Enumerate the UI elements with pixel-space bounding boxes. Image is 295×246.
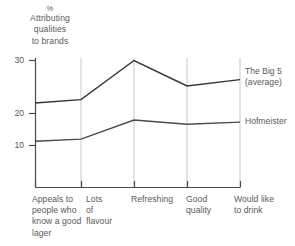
y-tick-label-10: 10 bbox=[4, 140, 24, 150]
x-axis bbox=[35, 181, 241, 188]
x-tick-label-lots-of-flavour: Lots of flavour bbox=[86, 194, 132, 228]
legend-label-the-big-5: The Big 5 (average) bbox=[245, 66, 282, 88]
x-tick-label-appeals-to-people-who-know-a-good-lager: Appeals to people who know a good lager bbox=[32, 194, 84, 239]
line-chart: % Attributing qualities to brands bbox=[0, 0, 295, 246]
y-tick-label-20: 20 bbox=[4, 108, 24, 118]
y-axis bbox=[29, 58, 36, 188]
x-tick-label-would-like-to-drink: Would like to drink bbox=[234, 194, 292, 216]
x-tick-label-good-quality: Good quality bbox=[186, 194, 234, 216]
x-tick-label-refreshing: Refreshing bbox=[131, 194, 185, 205]
series-line-hofmeister bbox=[35, 120, 240, 141]
legend-label-hofmeister: Hofmeister bbox=[245, 116, 287, 127]
series-line-the-big-5 bbox=[35, 61, 240, 104]
y-tick-label-30: 30 bbox=[4, 55, 24, 65]
